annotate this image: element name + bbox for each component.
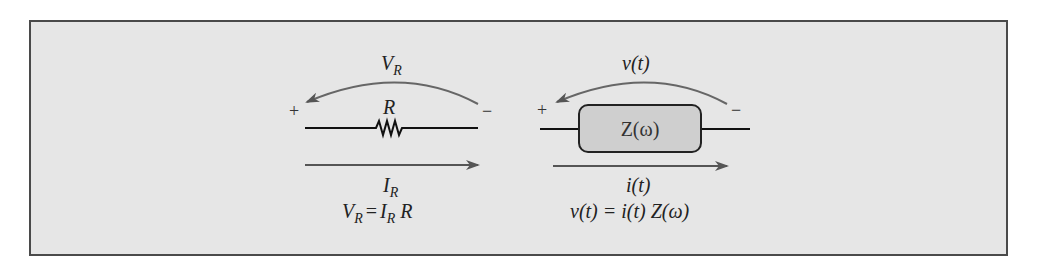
resistor-voltage-label: VR bbox=[381, 52, 402, 78]
circuit-diagram: VR + − R IR VR=IRR v(t) + − Z(ω) i(t) v(… bbox=[0, 0, 1038, 272]
minus-sign: − bbox=[731, 100, 741, 120]
ohms-law-equation: VR=IRR bbox=[342, 200, 413, 226]
impedance-equation: v(t) = i(t) Z(ω) bbox=[570, 200, 690, 223]
minus-sign: − bbox=[482, 101, 492, 121]
voltage-arrow-icon bbox=[557, 82, 727, 104]
impedance-voltage-label: v(t) bbox=[622, 52, 650, 75]
resistor-current-label: IR bbox=[382, 174, 399, 200]
resistor-icon bbox=[305, 121, 478, 135]
impedance-element: v(t) + − Z(ω) i(t) v(t) = i(t) Z(ω) bbox=[537, 52, 750, 223]
resistor-element: VR + − R IR VR=IRR bbox=[289, 52, 492, 226]
impedance-current-label: i(t) bbox=[626, 174, 651, 197]
impedance-label: Z(ω) bbox=[621, 118, 660, 141]
plus-sign: + bbox=[537, 100, 547, 120]
resistor-label: R bbox=[382, 96, 395, 118]
plus-sign: + bbox=[289, 101, 299, 121]
